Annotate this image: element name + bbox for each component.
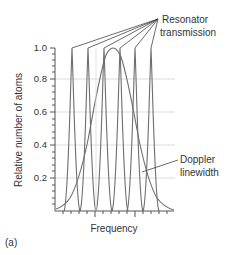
x-axis-label: Frequency (90, 223, 137, 234)
panel-label: (a) (5, 237, 17, 248)
y-axis-label: Relative number of atoms (13, 73, 24, 187)
ytick-0.4: 0.4 (34, 139, 47, 150)
resonator-annotation: Resonator transmission (160, 14, 216, 38)
ytick-0.8: 0.8 (34, 73, 47, 84)
peak-3 (96, 48, 112, 211)
peak-1 (64, 48, 80, 211)
resonator-leader-lines (72, 19, 158, 48)
resonator-label-line2: transmission (160, 27, 216, 38)
ytick-1.0: 1.0 (34, 42, 47, 53)
doppler-label-line2: linewidth (180, 167, 219, 178)
chart-figure: 1.0 0.8 0.6 0.4 0.2 Relative number of a… (0, 0, 231, 255)
doppler-label-line1: Doppler (180, 154, 216, 165)
y-axis (50, 48, 55, 211)
peak-6 (143, 48, 159, 211)
ytick-0.2: 0.2 (34, 172, 47, 183)
doppler-annotation: Doppler linewidth (180, 154, 219, 178)
peak-2 (80, 48, 96, 211)
x-axis (55, 211, 174, 217)
resonator-peaks (64, 48, 159, 211)
peak-5 (127, 48, 143, 211)
ytick-0.6: 0.6 (34, 106, 47, 117)
resonator-label-line1: Resonator (162, 14, 209, 25)
y-tick-labels: 1.0 0.8 0.6 0.4 0.2 (34, 42, 47, 183)
